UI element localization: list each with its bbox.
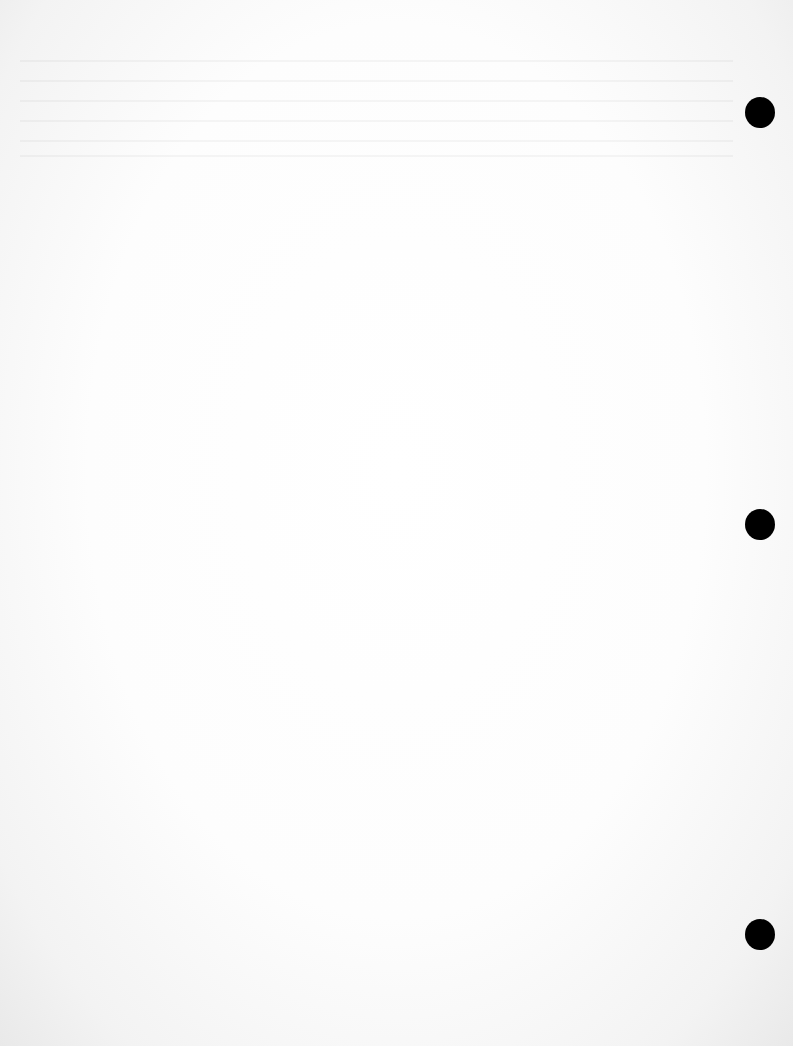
punch-hole	[745, 97, 775, 128]
punch-hole	[745, 509, 775, 540]
punch-hole	[745, 919, 775, 950]
bleed-through-line	[20, 80, 733, 82]
bleed-through-line	[20, 60, 733, 62]
bleed-through-line	[20, 140, 733, 142]
bleed-through-line	[20, 120, 733, 122]
bleed-through-line	[20, 100, 733, 102]
bleed-through-line	[20, 155, 733, 157]
scanned-page	[0, 0, 793, 1046]
